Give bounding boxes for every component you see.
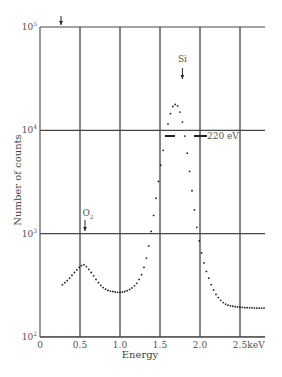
data-point — [189, 171, 191, 173]
data-point — [234, 306, 236, 308]
y-tick-label: 103 — [22, 227, 37, 239]
data-point — [232, 305, 234, 307]
axes — [40, 27, 265, 337]
data-point — [213, 289, 215, 291]
arrowhead-icon — [59, 21, 63, 25]
data-point — [155, 197, 157, 199]
data-point — [112, 291, 114, 293]
data-point — [74, 272, 76, 274]
data-point — [256, 307, 258, 309]
data-point — [81, 265, 83, 267]
data-point — [110, 290, 112, 292]
data-point — [242, 307, 244, 309]
data-point — [179, 111, 181, 113]
data-point — [71, 274, 73, 276]
data-point — [237, 306, 239, 308]
x-tick-label: 2.5 — [233, 340, 248, 350]
data-point — [239, 306, 241, 308]
data-point — [148, 245, 150, 247]
data-point — [153, 215, 155, 217]
data-point — [227, 304, 229, 306]
data-point — [220, 299, 222, 301]
data-point — [208, 277, 210, 279]
y-axis-label: Number of counts — [12, 134, 23, 226]
data-point — [146, 257, 148, 259]
x-axis-label: Energy — [122, 349, 159, 360]
si-annotation: Si — [178, 54, 187, 64]
data-point — [184, 135, 186, 137]
data-point — [114, 291, 116, 293]
y-tick-label: 105 — [22, 20, 37, 32]
data-point — [76, 269, 78, 271]
spectrum-chart: SiO2220 eV 00.51.01.52.02.5102103104105 … — [0, 0, 282, 377]
data-point — [246, 307, 248, 309]
data-point — [244, 307, 246, 309]
data-point — [174, 104, 176, 106]
data-point — [191, 190, 193, 192]
data-point — [186, 152, 188, 154]
data-point — [141, 274, 143, 276]
data-point — [102, 287, 104, 289]
data-point — [198, 240, 200, 242]
data-point — [215, 293, 217, 295]
data-point — [134, 285, 136, 287]
data-point — [258, 307, 260, 309]
data-point — [251, 307, 253, 309]
data-point — [98, 282, 100, 284]
data-point — [126, 290, 128, 292]
data-point — [131, 287, 133, 289]
data-point — [177, 105, 179, 107]
data-point — [225, 303, 227, 305]
o2-annotation: O2 — [82, 208, 93, 220]
data-point — [95, 279, 97, 281]
x-axis-unit: keV — [247, 340, 265, 350]
data-point — [203, 262, 205, 264]
arrowhead-icon — [83, 227, 87, 231]
x-tick-label: 0 — [37, 340, 43, 350]
data-point — [150, 231, 152, 233]
fwhm-label: 220 eV — [207, 131, 239, 141]
data-point — [100, 285, 102, 287]
data-point — [172, 106, 174, 108]
data-point — [158, 181, 160, 183]
data-point — [160, 164, 162, 166]
data-point — [86, 266, 88, 268]
tick-labels: 00.51.01.52.02.5102103104105 — [22, 20, 248, 350]
data-point — [105, 288, 107, 290]
y-tick-label: 102 — [22, 330, 37, 342]
data-point — [64, 282, 66, 284]
arrowhead-icon — [181, 75, 185, 79]
grid-lines — [40, 27, 265, 337]
data-point — [78, 267, 80, 269]
data-point — [201, 252, 203, 254]
data-point — [210, 284, 212, 286]
data-point — [249, 307, 251, 309]
data-point — [170, 113, 172, 115]
data-point — [196, 226, 198, 228]
data-point — [107, 289, 109, 291]
data-point — [206, 271, 208, 273]
data-point — [230, 305, 232, 307]
data-point — [182, 121, 184, 123]
data-point — [143, 267, 145, 269]
x-tick-label: 0.5 — [73, 340, 88, 350]
data-point — [119, 291, 121, 293]
data-point — [218, 297, 220, 299]
data-point — [167, 123, 169, 125]
data-point — [162, 149, 164, 151]
data-point — [90, 272, 92, 274]
data-point — [124, 291, 126, 293]
data-point — [122, 291, 124, 293]
data-point — [117, 291, 119, 293]
data-point — [129, 289, 131, 291]
annotations: SiO2220 eV — [59, 16, 239, 231]
data-point — [194, 209, 196, 211]
data-point — [138, 279, 140, 281]
data-point — [69, 277, 71, 279]
x-tick-label: 2.0 — [193, 340, 208, 350]
data-point — [136, 282, 138, 284]
data-point — [263, 307, 265, 309]
data-point — [254, 307, 256, 309]
data-point — [62, 284, 64, 286]
data-point — [261, 307, 263, 309]
